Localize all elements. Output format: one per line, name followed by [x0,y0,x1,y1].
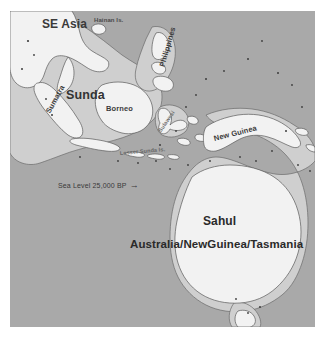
label-sahul: Sahul [203,215,236,227]
arrow-right-icon: → [130,181,139,190]
label-hainan-island: Hainan Is. [94,17,123,23]
sea-level-text: Sea Level 25,000 BP [58,182,127,189]
label-sunda: Sunda [66,89,105,102]
land-hainan [92,24,106,34]
label-se-asia: SE Asia [42,18,87,30]
label-borneo: Borneo [106,105,133,113]
map-figure: SE Asia Hainan Is. Philippines Sunda Bor… [0,0,325,340]
label-sahul-subtitle: Australia/NewGuinea/Tasmania [130,239,303,251]
land-lesser-sunda-3 [168,155,180,160]
sea-level-annotation: Sea Level 25,000 BP → [58,181,139,190]
land-lesser-sunda-2 [147,154,164,159]
map-panel: SE Asia Hainan Is. Philippines Sunda Bor… [10,11,315,327]
land-moluccas-2 [177,138,190,145]
